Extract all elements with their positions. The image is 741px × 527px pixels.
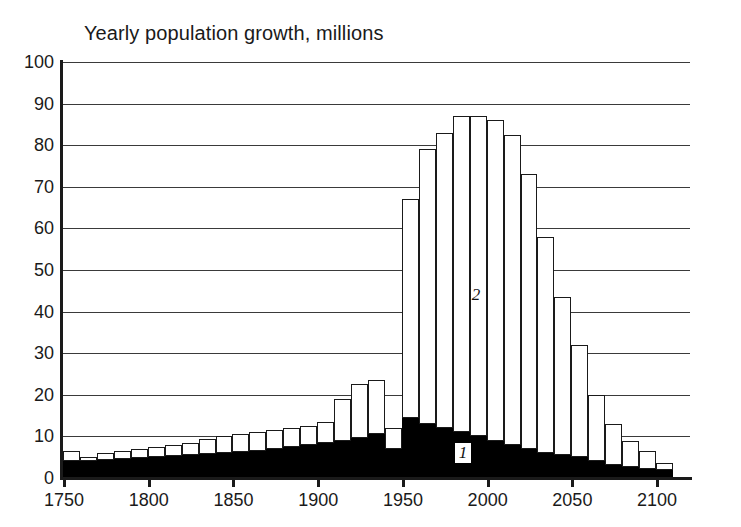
bar — [334, 399, 351, 478]
bar — [351, 384, 368, 478]
bar-segment-upper — [148, 447, 165, 457]
bar-segment-lower — [554, 455, 571, 478]
bar-segment-lower — [351, 438, 368, 478]
bar-segment-upper — [351, 384, 368, 438]
bar — [622, 441, 639, 478]
bar-segment-upper — [419, 149, 436, 424]
y-tick-label: 100 — [8, 52, 54, 73]
x-axis-line — [60, 477, 692, 480]
bar — [588, 395, 605, 478]
x-tick-mark — [402, 478, 405, 487]
x-tick-mark — [487, 478, 490, 487]
bar-segment-lower — [80, 461, 97, 478]
bar — [571, 345, 588, 478]
y-tick-label: 0 — [8, 468, 54, 489]
bar — [639, 451, 656, 478]
bar-segment-lower — [385, 449, 402, 478]
x-tick-label: 1950 — [383, 490, 423, 511]
x-tick-mark — [656, 478, 659, 487]
y-tick-label: 70 — [8, 176, 54, 197]
y-tick-label: 50 — [8, 260, 54, 281]
bar-segment-lower — [521, 449, 538, 478]
bar-segment-lower — [266, 449, 283, 478]
bar — [402, 199, 419, 478]
bar-segment-upper — [232, 434, 249, 451]
bar — [266, 430, 283, 478]
bar — [114, 451, 131, 478]
bar-segment-lower — [283, 447, 300, 478]
bar — [182, 443, 199, 478]
bar — [63, 451, 80, 478]
bar — [317, 422, 334, 478]
bar-segment-lower — [470, 436, 487, 478]
x-tick-mark — [232, 478, 235, 487]
bar-segment-upper — [402, 199, 419, 417]
bar — [385, 428, 402, 478]
chart-title: Yearly population growth, millions — [84, 22, 384, 45]
x-tick-label: 1850 — [213, 490, 253, 511]
bar — [216, 436, 233, 478]
bar-segment-upper — [605, 424, 622, 465]
y-tick-label: 80 — [8, 135, 54, 156]
bar — [419, 149, 436, 478]
bar-segment-upper — [368, 380, 385, 434]
bar — [165, 445, 182, 478]
gridline — [63, 312, 690, 313]
bar-segment-lower — [487, 441, 504, 478]
bar — [453, 116, 470, 478]
bar — [283, 428, 300, 478]
y-tick-label: 60 — [8, 218, 54, 239]
bar-segment-lower — [249, 451, 266, 478]
bar-segment-upper — [504, 135, 521, 445]
bar-segment-lower — [334, 441, 351, 478]
bar-segment-upper — [334, 399, 351, 441]
bar-segment-upper — [385, 428, 402, 449]
bar-segment-lower — [63, 461, 80, 478]
y-tick-label: 40 — [8, 301, 54, 322]
gridline — [63, 270, 690, 271]
y-axis-labels: 0102030405060708090100 — [0, 62, 54, 478]
bar — [656, 463, 673, 478]
x-tick-label: 1800 — [129, 490, 169, 511]
x-tick-label: 1900 — [298, 490, 338, 511]
x-tick-label: 2100 — [637, 490, 677, 511]
bar-segment-upper — [114, 451, 131, 459]
bar-segment-upper — [537, 237, 554, 453]
bar-segment-upper — [470, 116, 487, 436]
bar-segment-lower — [148, 457, 165, 478]
bar-segment-upper — [554, 297, 571, 455]
y-tick-label: 20 — [8, 384, 54, 405]
bar — [521, 174, 538, 478]
bar-segment-lower — [419, 424, 436, 478]
bar — [537, 237, 554, 478]
bar-segment-upper — [216, 436, 233, 453]
bar-segment-upper — [487, 120, 504, 440]
y-axis-line — [60, 60, 63, 480]
bar-segment-upper — [317, 422, 334, 443]
bar-segment-upper — [97, 453, 114, 460]
bar-segment-lower — [300, 445, 317, 478]
bar-segment-upper — [182, 443, 199, 455]
bar — [605, 424, 622, 478]
x-tick-label: 2000 — [468, 490, 508, 511]
bar-segment-lower — [588, 461, 605, 478]
bar — [487, 120, 504, 478]
bar-segment-lower — [571, 457, 588, 478]
bar-segment-upper — [199, 439, 216, 454]
bar-segment-lower — [97, 460, 114, 478]
series-annotation: 1 — [455, 443, 472, 463]
bar-segment-lower — [504, 445, 521, 478]
bar-segment-upper — [266, 430, 283, 449]
bar-segment-upper — [453, 116, 470, 432]
gridline — [63, 353, 690, 354]
bar-segment-upper — [521, 174, 538, 449]
bar-segment-upper — [639, 451, 656, 469]
bar-segment-upper — [165, 445, 182, 456]
x-tick-mark — [571, 478, 574, 487]
bar — [504, 135, 521, 478]
bar — [80, 457, 97, 478]
gridline — [63, 62, 690, 63]
bar-segment-upper — [571, 345, 588, 457]
bar-segment-lower — [317, 443, 334, 478]
gridline — [63, 187, 690, 188]
